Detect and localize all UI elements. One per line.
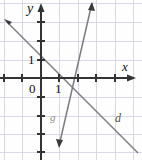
x-axis-arrowhead-icon	[127, 75, 136, 82]
line-d	[4, 19, 138, 153]
y-axis-arrowhead-icon	[38, 3, 45, 12]
origin-tick-label: 0	[29, 82, 36, 95]
line-d-label: d	[115, 112, 121, 124]
y-axis-label: y	[27, 2, 33, 16]
line-g-arrowhead-bottom-icon	[56, 139, 63, 148]
axes	[0, 8, 130, 160]
x-axis-label: x	[122, 60, 128, 73]
y-one-tick-label: 1	[28, 53, 35, 66]
x-one-tick-label: 1	[55, 82, 62, 95]
line-g-label: g	[50, 112, 56, 123]
graph-figure: y x 0 1 1 g d	[0, 0, 142, 160]
line-g	[56, 2, 95, 148]
coordinate-plane-svg	[0, 0, 142, 160]
